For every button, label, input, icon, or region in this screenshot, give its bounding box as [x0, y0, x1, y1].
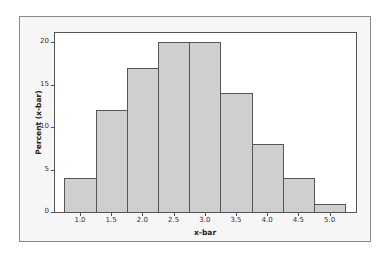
x-tick-label: 1.5 — [101, 216, 121, 224]
y-tick — [51, 127, 54, 128]
histogram-bar — [158, 42, 190, 213]
y-tick — [51, 212, 54, 213]
y-tick — [51, 42, 54, 43]
x-tick-label: 4.5 — [288, 216, 308, 224]
y-tick-label: 0 — [35, 207, 49, 215]
y-tick-label: 5 — [35, 165, 49, 173]
y-tick-label: 20 — [35, 37, 49, 45]
histogram-bar — [127, 68, 159, 214]
x-tick-label: 2.0 — [132, 216, 152, 224]
histogram-bar — [189, 42, 221, 213]
histogram-bar — [220, 93, 252, 213]
histogram-bar — [96, 110, 128, 213]
histogram-bar — [283, 178, 315, 213]
histogram-bar — [314, 204, 346, 214]
histogram-bar — [64, 178, 96, 213]
x-tick-label: 4.0 — [257, 216, 277, 224]
histogram-bar — [252, 144, 284, 213]
y-tick-label: 10 — [35, 122, 49, 130]
x-tick-label: 2.5 — [164, 216, 184, 224]
x-tick-label: 1.0 — [70, 216, 90, 224]
y-tick — [51, 170, 54, 171]
x-tick-label: 3.0 — [195, 216, 215, 224]
y-tick — [51, 85, 54, 86]
x-tick-label: 5.0 — [320, 216, 340, 224]
x-axis-title: x-bar — [194, 228, 216, 237]
y-tick-label: 15 — [35, 80, 49, 88]
x-tick-label: 3.5 — [226, 216, 246, 224]
